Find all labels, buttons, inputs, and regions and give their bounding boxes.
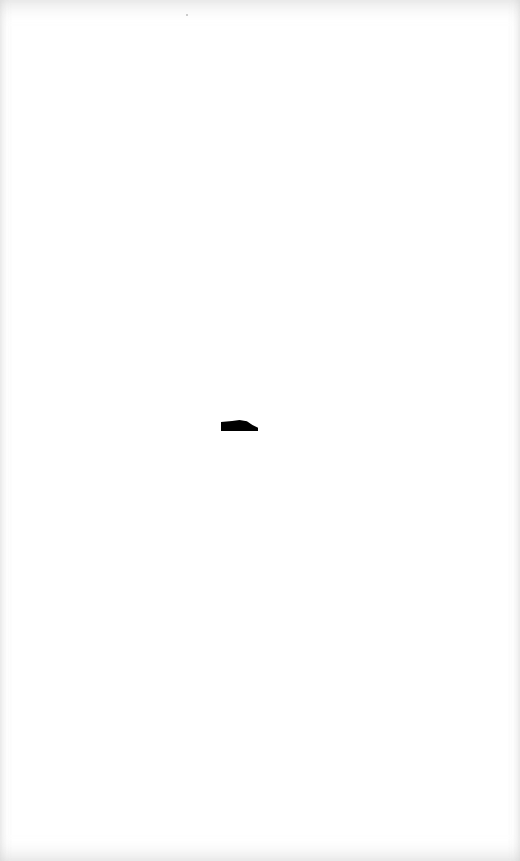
blank-document-page [0,0,520,861]
dust-speck [186,14,188,16]
ink-blob-mark [221,420,258,431]
